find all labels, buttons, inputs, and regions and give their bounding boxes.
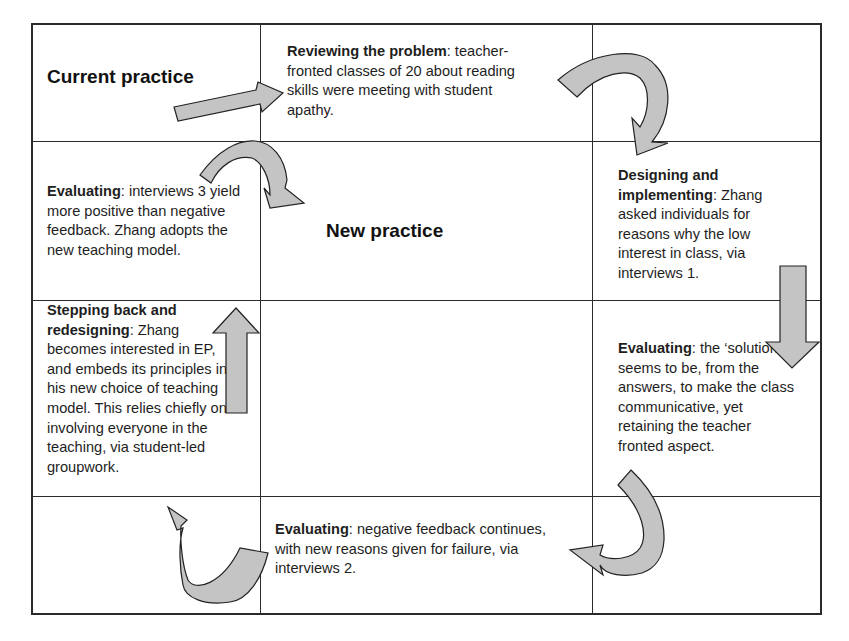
arrow-right-icon <box>174 82 283 121</box>
curved-arrow-up-icon <box>168 507 268 603</box>
curved-arrow-new-practice-icon <box>200 141 304 208</box>
curved-arrow-left-icon <box>570 470 664 575</box>
arrow-up-icon <box>213 308 259 413</box>
arrow-down-icon <box>766 266 819 368</box>
curved-arrow-down-icon <box>558 54 668 155</box>
flow-arrows <box>0 0 849 641</box>
